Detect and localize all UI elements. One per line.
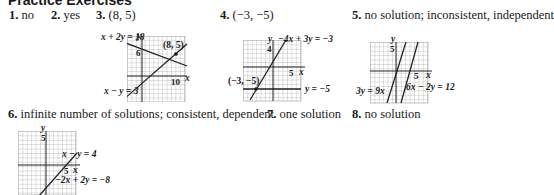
x-tick: 5 xyxy=(289,68,294,78)
answer-2: 2. yes xyxy=(51,8,80,23)
x-axis-label: x xyxy=(299,67,304,77)
equation-label: x − y = 4 xyxy=(62,149,96,159)
answer-number: 3. xyxy=(96,8,105,22)
section-title: Practice Exercises xyxy=(8,0,132,8)
answer-4: 4. (−3, −5) xyxy=(220,8,274,23)
equation-label: x − y = 3 xyxy=(104,86,138,96)
answer-number: 1. xyxy=(9,8,18,22)
graph-5: y 5 5 x 3y = 9x 6x − 2y = 12 xyxy=(370,42,432,104)
answer-7: 7. one solution xyxy=(267,107,341,122)
point-label: (−3, −5) xyxy=(228,76,259,86)
y-axis-label: y xyxy=(391,34,395,44)
answer-6: 6. infinite number of solutions; consist… xyxy=(8,107,274,122)
x-axis-label: x xyxy=(185,73,190,83)
answer-3: 3. (8, 5) xyxy=(96,8,136,23)
graph-grid xyxy=(243,40,305,102)
x-tick: 5 xyxy=(414,71,419,81)
equation-label: −4x + 3y = −3 xyxy=(278,34,333,44)
graph-grid xyxy=(18,131,80,195)
answer-number: 5. xyxy=(352,8,361,22)
x-axis-label: x xyxy=(73,165,78,175)
graph-6: y 5 x − y = 4 5 x −2x + 2y = −8 xyxy=(18,131,80,195)
answer-text: (8, 5) xyxy=(109,8,136,22)
answer-text: no solution; inconsistent, independent xyxy=(365,8,554,22)
y-axis-label: y xyxy=(268,34,272,44)
equation-label: −2x + 2y = −8 xyxy=(55,175,110,185)
answer-text: no solution xyxy=(365,107,421,121)
graph-3: x + 2y = 18 y x − y = 3 (8, 5) 6 10 x xyxy=(127,36,189,102)
x-tick: 10 xyxy=(171,77,180,87)
y-tick: 5 xyxy=(41,133,46,143)
answer-text: no xyxy=(22,8,35,22)
answer-text: (−3, −5) xyxy=(233,8,274,22)
answer-8: 8. no solution xyxy=(352,107,420,122)
answer-text: infinite number of solutions; consistent… xyxy=(21,107,274,121)
point-label: (8, 5) xyxy=(163,40,184,50)
answer-text: yes xyxy=(64,8,81,22)
equation-label: 3y = 9x xyxy=(356,86,385,96)
answer-number: 6. xyxy=(8,107,17,121)
answer-number: 7. xyxy=(267,107,276,121)
answer-1: 1. no xyxy=(9,8,34,23)
equation-label: y = −5 xyxy=(305,84,330,94)
equation-label: 6x − 2y = 12 xyxy=(406,82,455,92)
answer-5: 5. no solution; inconsistent, independen… xyxy=(352,8,554,23)
graph-4: y −4x + 3y = −3 4 5 x (−3, −5) y = −5 xyxy=(243,40,305,102)
y-axis-label: y xyxy=(41,123,45,133)
answer-number: 2. xyxy=(51,8,60,22)
answer-number: 8. xyxy=(352,107,361,121)
y-tick: 6 xyxy=(136,48,141,58)
answer-number: 4. xyxy=(220,8,229,22)
y-tick: 4 xyxy=(267,44,272,54)
answer-text: one solution xyxy=(280,107,341,121)
y-axis-label: y xyxy=(137,31,141,41)
x-axis-label: x xyxy=(426,70,431,80)
y-tick: 5 xyxy=(390,44,395,54)
